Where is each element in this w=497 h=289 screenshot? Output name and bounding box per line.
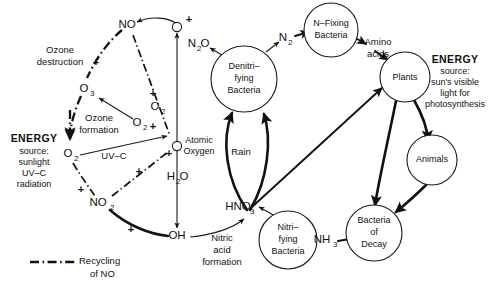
- svg-text:radiation: radiation: [17, 179, 52, 189]
- svg-text:sun's visible: sun's visible: [431, 77, 479, 87]
- svg-text:N: N: [188, 37, 196, 49]
- svg-text:Decay: Decay: [361, 239, 387, 249]
- svg-text:Amino: Amino: [365, 36, 392, 47]
- plus-atomic-below: +: [166, 147, 172, 159]
- label-o2-formation: O 2: [133, 116, 148, 132]
- label-oh: OH: [168, 229, 185, 241]
- diagram-canvas: O NO O 3 O 2 O 2 O 2 NO 2 OH H 2 O: [0, 0, 497, 289]
- legend-line1: Recycling: [79, 255, 120, 266]
- label-o3: O 3: [80, 82, 95, 98]
- svg-text:light for: light for: [440, 88, 470, 98]
- svg-text:UV–C: UV–C: [22, 168, 47, 178]
- svg-text:ENERGY: ENERGY: [432, 53, 479, 65]
- label-ozone-destruction: Ozone destruction: [37, 44, 83, 67]
- plus-o2-branch: +: [150, 87, 156, 99]
- plus-oh-branch: +: [128, 223, 134, 235]
- svg-text:HNO: HNO: [225, 200, 251, 212]
- svg-text:ENERGY: ENERGY: [11, 132, 58, 144]
- label-nh3: NH 3: [314, 233, 338, 249]
- label-rain: Rain: [231, 146, 251, 157]
- svg-text:sunlight: sunlight: [18, 157, 50, 167]
- svg-text:source:: source:: [19, 146, 49, 156]
- edge-denitrifying-to-n2o: [210, 48, 222, 55]
- svg-text:acids: acids: [367, 48, 389, 59]
- plus-atomic-left: +: [150, 120, 156, 132]
- svg-text:H: H: [167, 170, 175, 182]
- svg-text:O: O: [151, 100, 160, 112]
- svg-text:O: O: [180, 170, 189, 182]
- nitrogen-ozone-cycle-diagram: O NO O 3 O 2 O 2 O 2 NO 2 OH H 2 O: [0, 0, 497, 289]
- svg-text:3: 3: [333, 240, 338, 249]
- label-amino-acids: Amino acids: [365, 36, 392, 59]
- label-atomic-oxygen-1: Atomic: [185, 135, 213, 145]
- label-plants: Plants: [392, 72, 418, 82]
- svg-text:N: N: [279, 31, 287, 43]
- label-h2o: H 2 O: [167, 170, 189, 186]
- svg-text:photosynthesis: photosynthesis: [425, 99, 486, 109]
- label-o2-upper: O 2: [151, 100, 166, 116]
- node-top-o-circle: [172, 22, 181, 31]
- svg-text:O: O: [201, 37, 210, 49]
- svg-text:O: O: [64, 147, 73, 159]
- edge-animals-to-bacteria-of-decay: [396, 185, 426, 212]
- svg-text:3: 3: [90, 89, 95, 98]
- svg-text:Denitri–: Denitri–: [228, 61, 259, 71]
- svg-text:destruction: destruction: [37, 56, 83, 67]
- svg-text:N–Fixing: N–Fixing: [313, 18, 349, 28]
- svg-text:2: 2: [74, 154, 79, 163]
- legend-recycling-of-no: Recycling of NO: [30, 255, 120, 279]
- svg-text:of: of: [370, 227, 378, 237]
- plus-ozone-destruction: +: [93, 56, 99, 68]
- label-uv-c: UV–C: [101, 150, 126, 161]
- edge-no-to-o3-recycle: [87, 30, 122, 78]
- svg-text:2: 2: [288, 38, 293, 47]
- svg-text:acid: acid: [213, 244, 230, 255]
- svg-text:2: 2: [143, 123, 148, 132]
- svg-text:NH: NH: [314, 233, 331, 245]
- svg-text:Bacteria: Bacteria: [314, 30, 347, 40]
- legend-line2: of NO: [90, 268, 115, 279]
- edge-plants-to-bacteria-of-decay: [375, 101, 396, 205]
- label-animals: Animals: [416, 154, 449, 164]
- edge-hno3-to-plants: [252, 88, 382, 207]
- energy-source-right: ENERGY source: sun's visible light for p…: [425, 53, 486, 110]
- label-o2-left: O 2: [64, 147, 79, 163]
- svg-text:NO: NO: [89, 196, 106, 208]
- svg-text:Nitric: Nitric: [211, 232, 233, 243]
- edge-hno3-to-denitrifying-left: [226, 113, 247, 210]
- svg-text:fying: fying: [278, 234, 297, 244]
- svg-text:O: O: [80, 82, 89, 94]
- svg-text:Ozone: Ozone: [46, 44, 74, 55]
- node-atomic-oxygen-circle: [172, 141, 181, 150]
- label-n2: N 2: [279, 31, 293, 47]
- label-atomic-oxygen-2: Oxygen: [183, 146, 214, 156]
- plus-no2-upper: +: [78, 183, 84, 195]
- plus-top-o: +: [186, 13, 192, 25]
- edge-top-o-to-no: [137, 18, 177, 24]
- label-no2: NO 2: [89, 196, 115, 212]
- svg-text:fying: fying: [234, 73, 253, 83]
- label-nitric-acid-formation: Nitric acid formation: [202, 232, 242, 267]
- svg-text:formation: formation: [202, 256, 242, 267]
- label-ozone-formation: Ozone formation: [79, 112, 119, 135]
- svg-text:formation: formation: [79, 124, 119, 135]
- svg-text:Bacteria: Bacteria: [227, 85, 260, 95]
- energy-source-left: ENERGY source: sunlight UV–C radiation: [11, 132, 58, 190]
- svg-text:2: 2: [161, 107, 166, 116]
- label-no: NO: [118, 18, 135, 30]
- edge-no2-to-oh: [110, 210, 168, 236]
- svg-text:Bacteria: Bacteria: [357, 215, 390, 225]
- svg-text:source:: source:: [440, 66, 470, 76]
- label-hno3: HNO 3: [225, 200, 255, 216]
- plus-no2-branch: +: [136, 165, 142, 177]
- svg-text:Nitri–: Nitri–: [277, 222, 298, 232]
- label-n2o: N 2 O: [188, 37, 210, 53]
- svg-text:2: 2: [110, 203, 115, 212]
- svg-text:Ozone: Ozone: [85, 112, 113, 123]
- svg-text:Bacteria: Bacteria: [271, 246, 304, 256]
- svg-text:O: O: [133, 116, 142, 128]
- svg-text:3: 3: [250, 207, 255, 216]
- edge-denitrifying-to-n2: [266, 42, 279, 52]
